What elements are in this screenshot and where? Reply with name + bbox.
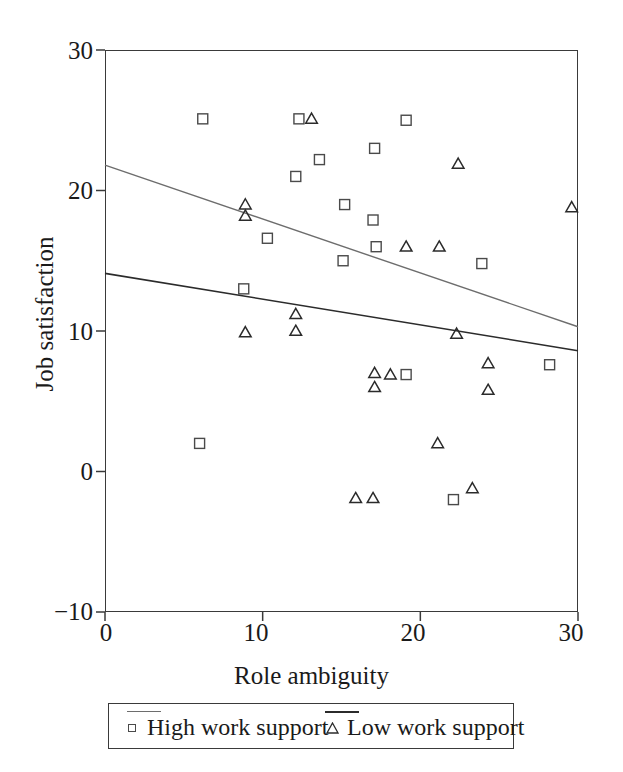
x-axis-title: Role ambiguity xyxy=(0,662,623,690)
x-tick-label: 30 xyxy=(556,620,586,645)
y-axis-title: Job satisfaction xyxy=(31,154,59,474)
legend-item-low-work-support: Low work support xyxy=(321,704,524,750)
y-tick-label: 30 xyxy=(38,38,93,63)
plot-area xyxy=(105,50,578,612)
legend: High work support Low work support xyxy=(108,703,514,749)
scatter-plot-figure: 30 20 10 0 −10 0 10 20 30 Role ambiguity… xyxy=(0,0,623,772)
legend-trendline-high-icon xyxy=(127,711,161,712)
square-marker-icon xyxy=(121,718,143,736)
x-tick-label: 20 xyxy=(398,620,428,645)
y-tick-label: −10 xyxy=(24,599,93,624)
x-tick-label: 10 xyxy=(241,620,271,645)
legend-trendline-low-icon xyxy=(325,711,359,713)
legend-label-high: High work support xyxy=(147,714,328,741)
x-tick-label: 0 xyxy=(98,620,114,645)
legend-label-low: Low work support xyxy=(347,714,524,741)
legend-item-high-work-support: High work support xyxy=(121,704,328,750)
triangle-marker-icon xyxy=(321,718,343,736)
